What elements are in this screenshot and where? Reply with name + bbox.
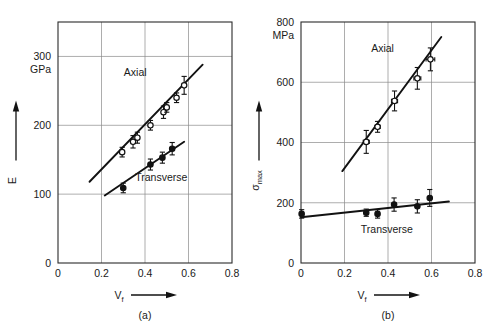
x-tick-label: 0 <box>298 267 304 279</box>
y-tick-label: 200 <box>33 119 51 131</box>
y-axis-title: σmax <box>249 170 264 191</box>
data-point-open <box>375 124 380 129</box>
x-axis-title-subscript: f <box>364 295 367 304</box>
y-tick-label: 0 <box>288 257 294 269</box>
data-point-open <box>364 139 369 144</box>
y-axis-unit-label: GPa <box>30 63 51 75</box>
series-label-axial: Axial <box>124 66 147 78</box>
data-point-filled <box>169 146 174 151</box>
series-axial: Axial <box>90 65 203 182</box>
y-axis-title-subscript: max <box>255 170 264 184</box>
x-tick-label: 0.2 <box>94 267 109 279</box>
data-point-open <box>119 149 124 154</box>
x-tick-label: 0.6 <box>181 267 196 279</box>
y-axis-title: E <box>6 177 18 184</box>
panel-b: 00.20.40.60.80200400600800MPaσmaxVf(b)Ax… <box>249 16 482 321</box>
series-transverse: Transverse <box>299 190 449 235</box>
y-tick-label: 600 <box>276 76 294 88</box>
series-label-transverse: Transverse <box>135 171 187 183</box>
series-transverse: Transverse <box>105 142 188 196</box>
x-axis-arrow-head <box>166 292 177 298</box>
x-axis-title: Vf <box>114 289 124 304</box>
data-point-open <box>415 76 420 81</box>
data-point-filled <box>160 155 165 160</box>
series-axial: Axial <box>342 37 441 171</box>
y-tick-label: 100 <box>33 188 51 200</box>
panel-a: 00.20.40.60.80100200300GPaEVf(a)AxialTra… <box>6 22 239 321</box>
y-axis-unit-label: MPa <box>272 29 294 41</box>
y-tick-label: 400 <box>276 136 294 148</box>
data-point-open <box>164 105 169 110</box>
x-axis-arrow-head <box>409 292 420 298</box>
data-point-open <box>148 123 153 128</box>
data-point-open <box>174 95 179 100</box>
x-tick-label: 0.8 <box>468 267 483 279</box>
panel-caption: (a) <box>139 309 152 321</box>
x-axis-title-subscript: f <box>121 295 124 304</box>
x-tick-label: 0.4 <box>381 267 396 279</box>
y-axis-arrow-head <box>13 101 19 112</box>
y-tick-label: 300 <box>33 50 51 62</box>
y-tick-label: 200 <box>276 197 294 209</box>
series-label-transverse: Transverse <box>361 223 413 235</box>
data-point-filled <box>375 211 380 216</box>
data-point-filled <box>121 185 126 190</box>
y-tick-label: 0 <box>45 257 51 269</box>
data-point-filled <box>364 210 369 215</box>
two-panel-scatter-figure: 00.20.40.60.80100200300GPaEVf(a)AxialTra… <box>0 0 492 332</box>
data-point-open <box>392 98 397 103</box>
x-tick-label: 0.2 <box>337 267 352 279</box>
y-tick-label: 800 <box>276 16 294 28</box>
panel-caption: (b) <box>382 309 395 321</box>
x-tick-label: 0.8 <box>225 267 240 279</box>
data-point-open <box>181 83 186 88</box>
data-point-open <box>135 135 140 140</box>
figure-container: 00.20.40.60.80100200300GPaEVf(a)AxialTra… <box>0 0 492 332</box>
series-label-axial: Axial <box>371 42 394 54</box>
data-point-filled <box>391 202 396 207</box>
series-fit-line <box>90 65 203 182</box>
x-axis-title: Vf <box>357 289 367 304</box>
x-tick-label: 0.6 <box>424 267 439 279</box>
x-tick-label: 0.4 <box>138 267 153 279</box>
data-point-open <box>428 57 433 62</box>
y-axis-arrow-head <box>256 101 262 112</box>
x-tick-label: 0 <box>55 267 61 279</box>
data-point-filled <box>427 195 432 200</box>
data-point-filled <box>415 204 420 209</box>
data-point-filled <box>148 162 153 167</box>
data-point-filled <box>299 211 304 216</box>
